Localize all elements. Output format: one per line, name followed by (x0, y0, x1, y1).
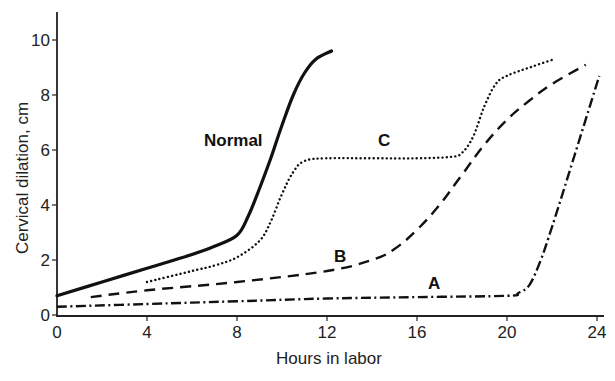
curve-label-c: C (378, 131, 390, 150)
y-axis-title: Cervical dilation, cm (13, 102, 32, 254)
curve-normal (57, 51, 332, 296)
x-tick-label: 12 (318, 323, 337, 342)
y-tick-label: 10 (31, 31, 50, 50)
x-tick-label: 16 (408, 323, 427, 342)
y-tick-label: 8 (41, 86, 50, 105)
curve-label-b: B (334, 247, 346, 266)
x-tick-label: 24 (588, 323, 607, 342)
x-tick-label: 8 (232, 323, 241, 342)
curves (57, 51, 599, 307)
labor-curve-chart: 0 2 4 6 8 10 0 4 8 12 16 20 24 Hours in … (0, 0, 615, 381)
curve-label-normal: Normal (204, 131, 263, 150)
y-tick-label: 6 (41, 141, 50, 160)
x-ticks: 0 4 8 12 16 20 24 (52, 316, 606, 342)
y-tick-label: 0 (41, 306, 50, 325)
curve-label-a: A (428, 274, 440, 293)
x-tick-label: 4 (142, 323, 151, 342)
y-ticks: 0 2 4 6 8 10 (31, 31, 57, 325)
y-tick-label: 4 (41, 196, 50, 215)
y-tick-label: 2 (41, 251, 50, 270)
x-axis-title: Hours in labor (276, 349, 382, 368)
x-tick-label: 20 (498, 323, 517, 342)
x-tick-label: 0 (52, 323, 61, 342)
